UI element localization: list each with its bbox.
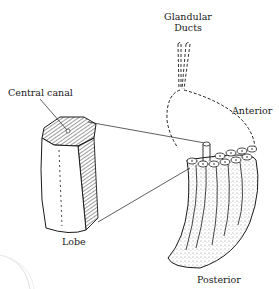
- label-ducts-line2: Ducts: [160, 22, 216, 33]
- gland-outline-dashed: [167, 90, 255, 148]
- label-central-canal: Central canal: [8, 87, 73, 98]
- diagram-illustration: [0, 0, 279, 289]
- label-lobe: Lobe: [62, 236, 86, 247]
- lobe-prism: [41, 117, 98, 233]
- label-glandular-line1: Glandular: [160, 11, 216, 22]
- gland-body: [168, 142, 258, 268]
- label-anterior: Anterior: [232, 105, 272, 116]
- glandular-ducts: [178, 43, 190, 90]
- watermark-arc: [0, 255, 34, 289]
- label-posterior: Posterior: [197, 274, 241, 285]
- label-glandular-ducts: Glandular Ducts: [160, 11, 216, 33]
- diagram-canvas: Glandular Ducts Central canal Anterior L…: [0, 0, 279, 289]
